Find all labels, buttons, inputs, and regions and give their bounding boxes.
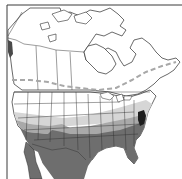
range-map bbox=[0, 0, 182, 179]
north-america-map-svg bbox=[0, 0, 182, 179]
